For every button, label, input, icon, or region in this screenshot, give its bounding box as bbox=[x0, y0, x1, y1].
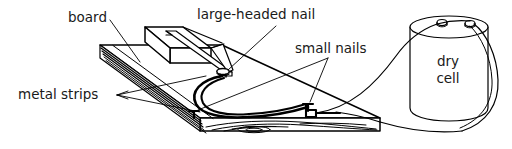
dry-cell-label-line2: cell bbox=[436, 70, 459, 86]
diagram-canvas: dry cell bbox=[0, 0, 512, 149]
nail-head-ellipse bbox=[217, 68, 229, 74]
wire-lower bbox=[380, 122, 462, 132]
label-metal-strips: metal strips bbox=[18, 86, 98, 102]
label-board: board bbox=[68, 9, 107, 25]
label-large-headed-nail: large-headed nail bbox=[197, 6, 315, 22]
physics-diagram-buzzer-circuit: dry cell bbox=[0, 0, 512, 149]
dry-cell-label-line1: dry bbox=[437, 53, 459, 69]
label-small-nails: small nails bbox=[295, 40, 367, 56]
dry-cell-top bbox=[410, 16, 488, 38]
